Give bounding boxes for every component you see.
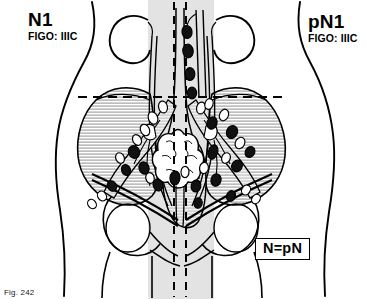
- label-clinical-n1: N1 FIGO: IIIC: [28, 10, 77, 42]
- stage-code-pn1: pN1: [308, 12, 357, 31]
- equivalence-box: N=pN: [255, 238, 310, 260]
- figure-caption: Fig. 242: [4, 288, 35, 297]
- label-pathological-pn1: pN1 FIGO: IIIC: [308, 12, 357, 44]
- lymph-node-positive-3: [185, 67, 195, 80]
- lymph-node-negative-11: [181, 166, 189, 177]
- femur-right: [214, 204, 258, 252]
- figure-canvas: N1 FIGO: IIIC pN1 FIGO: IIIC N=pN Fig. 2…: [0, 0, 366, 299]
- femur-left: [106, 204, 150, 252]
- anatomical-illustration: [0, 0, 366, 299]
- lymph-node-negative-15: [86, 198, 98, 211]
- figo-stage-right: FIGO: IIIC: [308, 33, 357, 44]
- figo-stage-left: FIGO: IIIC: [28, 31, 77, 42]
- kidney-right: [214, 16, 254, 63]
- lymph-node-positive-4: [187, 87, 196, 99]
- stage-code-n1: N1: [28, 10, 77, 29]
- kidney-left: [110, 16, 150, 63]
